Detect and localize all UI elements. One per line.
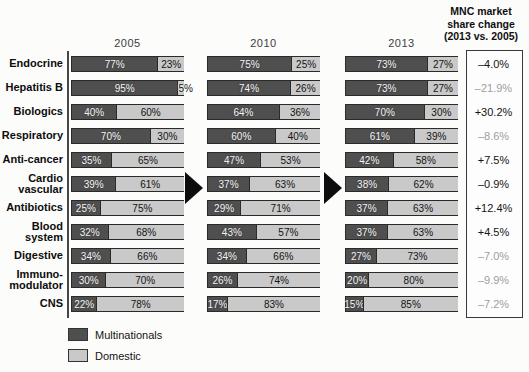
segment-value-label: 74% bbox=[239, 83, 259, 94]
segment-value-label: 71% bbox=[271, 203, 291, 214]
column-header-2005: 2005 bbox=[71, 37, 184, 49]
stacked-bar-2005: 32%68% bbox=[71, 224, 184, 240]
segment-value-label: 70% bbox=[101, 131, 121, 142]
segment-value-label: 30% bbox=[79, 275, 99, 286]
segment-value-label: 39% bbox=[84, 179, 104, 190]
stacked-bar-2013: 37%63% bbox=[345, 200, 458, 216]
segment-value-label: 25% bbox=[296, 59, 316, 70]
segment-value-label: 62% bbox=[414, 179, 434, 190]
stacked-bar-2005: 25%75% bbox=[71, 200, 184, 216]
bar-segment-domestic: 75% bbox=[100, 201, 184, 215]
stacked-bar-2013: 37%63% bbox=[345, 224, 458, 240]
segment-value-label: 39% bbox=[426, 131, 446, 142]
segment-value-label: 66% bbox=[273, 251, 293, 262]
change-value: –4.0% bbox=[467, 56, 520, 72]
segment-value-label: 75% bbox=[240, 59, 260, 70]
bar-segment-domestic: 68% bbox=[108, 225, 184, 239]
segment-value-label: 26% bbox=[296, 83, 316, 94]
bar-segment-domestic: 5% bbox=[177, 81, 184, 95]
bar-segment-domestic: 83% bbox=[227, 297, 320, 311]
bar-segment-multinational: 70% bbox=[346, 105, 424, 119]
bar-segment-multinational: 17% bbox=[208, 297, 227, 311]
bar-segment-multinational: 70% bbox=[72, 129, 150, 143]
stacked-bar-2013: 61%39% bbox=[345, 128, 458, 144]
segment-value-label: 23% bbox=[161, 59, 181, 70]
stacked-bar-2010: 64%36% bbox=[207, 104, 320, 120]
bar-segment-multinational: 40% bbox=[72, 105, 116, 119]
change-value: –7.0% bbox=[467, 248, 520, 264]
segment-value-label: 75% bbox=[132, 203, 152, 214]
stacked-bar-2013: 27%73% bbox=[345, 248, 458, 264]
segment-value-label: 77% bbox=[105, 59, 125, 70]
segment-value-label: 60% bbox=[231, 131, 251, 142]
segment-value-label: 63% bbox=[275, 179, 295, 190]
stacked-bar-2005: 39%61% bbox=[71, 176, 184, 192]
change-value: +7.5% bbox=[467, 152, 520, 168]
segment-value-label: 29% bbox=[214, 203, 234, 214]
bar-segment-multinational: 35% bbox=[72, 153, 111, 167]
stacked-bar-2010: 17%83% bbox=[207, 296, 320, 312]
category-label: Endocrine bbox=[0, 52, 63, 76]
bar-segment-domestic: 63% bbox=[249, 177, 320, 191]
bar-segment-multinational: 42% bbox=[346, 153, 393, 167]
bar-segment-multinational: 74% bbox=[208, 81, 290, 95]
stacked-bar-2013: 15%85% bbox=[345, 296, 458, 312]
stacked-bar-2010: 74%26% bbox=[207, 80, 320, 96]
category-label: Antibiotics bbox=[0, 196, 63, 220]
bar-segment-multinational: 75% bbox=[208, 57, 291, 71]
bar-segment-multinational: 39% bbox=[72, 177, 115, 191]
category-label: Anti-cancer bbox=[0, 148, 63, 172]
stacked-bar-2013: 70%30% bbox=[345, 104, 458, 120]
segment-value-label: 37% bbox=[357, 203, 377, 214]
change-value: –7.2% bbox=[467, 296, 520, 312]
column-header-2010: 2010 bbox=[207, 37, 320, 49]
change-value: –0.9% bbox=[467, 176, 520, 192]
bar-segment-multinational: 73% bbox=[346, 81, 427, 95]
segment-value-label: 27% bbox=[433, 59, 453, 70]
segment-value-label: 95% bbox=[115, 83, 135, 94]
change-value: +4.5% bbox=[467, 224, 520, 240]
bar-segment-multinational: 15% bbox=[346, 297, 363, 311]
segment-value-label: 73% bbox=[377, 83, 397, 94]
segment-value-label: 64% bbox=[234, 107, 254, 118]
stacked-bar-2010: 75%25% bbox=[207, 56, 320, 72]
bar-segment-multinational: 95% bbox=[72, 81, 177, 95]
bar-segment-multinational: 37% bbox=[346, 201, 387, 215]
segment-value-label: 58% bbox=[416, 155, 436, 166]
bar-segment-domestic: 78% bbox=[96, 297, 184, 311]
segment-value-label: 78% bbox=[131, 299, 151, 310]
bar-segment-multinational: 22% bbox=[72, 297, 96, 311]
bar-segment-multinational: 29% bbox=[208, 201, 240, 215]
bar-segment-multinational: 61% bbox=[346, 129, 414, 143]
bar-segment-domestic: 70% bbox=[105, 273, 184, 287]
bar-segment-multinational: 25% bbox=[72, 201, 100, 215]
change-value: –21.9% bbox=[467, 80, 520, 96]
change-value: +12.4% bbox=[467, 200, 520, 216]
change-value: –8.6% bbox=[467, 128, 520, 144]
bar-segment-domestic: 73% bbox=[376, 249, 458, 263]
bar-segment-domestic: 60% bbox=[116, 105, 184, 119]
bar-segment-domestic: 57% bbox=[256, 225, 320, 239]
category-label: Immuno- modulator bbox=[0, 268, 63, 292]
stacked-bar-2005: 35%65% bbox=[71, 152, 184, 168]
segment-value-label: 37% bbox=[357, 227, 377, 238]
segment-value-label: 61% bbox=[370, 131, 390, 142]
segment-value-label: 65% bbox=[138, 155, 158, 166]
bar-segment-multinational: 27% bbox=[346, 249, 376, 263]
segment-value-label: 25% bbox=[76, 203, 96, 214]
bar-segment-multinational: 77% bbox=[72, 57, 157, 71]
segment-value-label: 60% bbox=[141, 107, 161, 118]
bar-segment-domestic: 53% bbox=[260, 153, 320, 167]
transition-arrow-2005-2010 bbox=[185, 172, 203, 204]
legend-item-domestic: Domestic bbox=[68, 349, 141, 362]
change-column-header: MNC market share change (2013 vs. 2005) bbox=[433, 5, 529, 43]
legend-item-multinationals: Multinationals bbox=[68, 328, 162, 341]
segment-value-label: 40% bbox=[84, 107, 104, 118]
stacked-bar-2010: 26%74% bbox=[207, 272, 320, 288]
bar-segment-domestic: 30% bbox=[150, 129, 184, 143]
segment-value-label: 27% bbox=[351, 251, 371, 262]
bar-segment-domestic: 74% bbox=[237, 273, 320, 287]
stacked-bar-2010: 37%63% bbox=[207, 176, 320, 192]
bar-segment-domestic: 40% bbox=[275, 129, 320, 143]
segment-value-label: 63% bbox=[413, 227, 433, 238]
